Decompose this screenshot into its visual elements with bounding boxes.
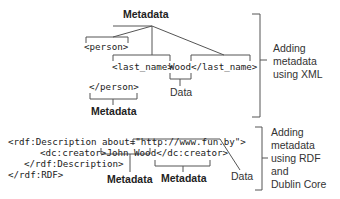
xml-person-close: </person> xyxy=(89,81,139,92)
xml-side-caption: Adding metadata using XML xyxy=(273,42,323,81)
rdf-desc-prefix: <rdf:Description about=" xyxy=(8,136,141,147)
xml-person-open: <person> xyxy=(84,41,128,52)
xml-metadata-label-top: Metadata xyxy=(123,8,169,20)
xml-data-label: Data xyxy=(170,86,192,98)
dc-creator-open: <dc:creator> xyxy=(40,147,106,158)
caption-line: Dublin Core xyxy=(271,178,326,191)
rdf-metadata-label-left: Metadata xyxy=(107,173,153,185)
caption-line: metadata xyxy=(271,139,326,152)
dc-creator-close: </dc:creator> xyxy=(156,147,228,158)
caption-line: using RDF xyxy=(271,152,326,165)
caption-line: and xyxy=(271,165,326,178)
rdf-url: http://www.fun.by xyxy=(141,136,235,147)
xml-metadata-label-bottom: Metadata xyxy=(91,105,137,117)
rdf-side-caption: Adding metadata using RDF and Dublin Cor… xyxy=(271,126,326,191)
rdf-line-3: </rdf:Description> xyxy=(24,158,124,169)
caption-line: using XML xyxy=(273,68,323,81)
rdf-line-1: <rdf:Description about="http://www.fun.b… xyxy=(8,136,246,147)
xml-value: Wood xyxy=(169,61,191,72)
caption-line: metadata xyxy=(273,55,323,68)
caption-line: Adding xyxy=(271,126,326,139)
rdf-desc-suffix: "> xyxy=(235,136,246,147)
rdf-line-4: </rdf:RDF> xyxy=(8,169,63,180)
rdf-line-2: <dc:creator>John Wood</dc:creator> xyxy=(40,147,228,158)
rdf-metadata-label-right: Metadata xyxy=(161,172,207,184)
caption-line: Adding xyxy=(273,42,323,55)
xml-last-name-close: </last_name> xyxy=(191,61,257,72)
xml-last-name-open: <last_name> xyxy=(112,61,173,72)
rdf-data-label: Data xyxy=(231,170,253,182)
dc-creator-value: John Wood xyxy=(106,147,156,158)
